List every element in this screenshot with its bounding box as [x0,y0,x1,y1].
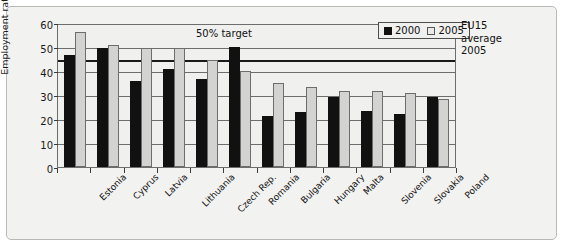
bar-2005-romania [240,71,251,167]
legend-entry-2005: 2005 [427,25,463,36]
bar-2000-cyprus [97,48,108,167]
chart-legend: 2000 2005 [378,22,470,39]
y-tick-label-30: 30 [27,92,58,103]
bar-group [290,25,323,167]
x-tick-label-lithuania: Lithuania [200,172,237,209]
bar-2005-hungary [306,87,317,167]
y-tick-label-50: 50 [27,44,58,55]
bar-2005-slovakia [405,93,416,167]
bar-2005-malta [339,91,350,167]
y-tick-label-60: 60 [27,20,58,31]
bar-2005-poland [438,99,449,167]
eu15-label-line3: 2005 [461,45,502,58]
legend-entry-2000: 2000 [384,25,420,36]
bar-2000-poland [427,97,438,167]
bar-group [389,25,422,167]
x-tick-label-malta: Malta [361,172,386,197]
y-tick-label-40: 40 [27,68,58,79]
bar-2005-estonia [75,32,86,167]
y-tick-label-20: 20 [27,116,58,127]
legend-label-2000: 2000 [395,25,420,36]
x-tick-label-slovenia: Slovenia [399,172,433,206]
y-axis-title: Employment rate % [0,0,10,78]
bar-group [323,25,356,167]
bar-2000-czech-rep [196,79,207,167]
bar-group [124,25,157,167]
bar-group [91,25,124,167]
bar-2000-estonia [64,55,75,167]
x-tick-label-estonia: Estonia [98,172,129,203]
bar-2000-romania [229,47,240,167]
eu15-average-label: EU15 average 2005 [461,20,502,58]
bar-group [223,25,256,167]
y-tick-label-0: 0 [27,164,58,175]
chart-figure: Employment rate % 0102030405060 EstoniaC… [0,0,561,244]
x-tick-label-latvia: Latvia [163,172,189,198]
bar-group [190,25,223,167]
bar-2005-lithuania [174,48,185,167]
x-tick-label-cyprus: Cyprus [131,172,160,201]
eu15-label-line1: EU15 [461,20,502,33]
bar-group [256,25,289,167]
bar-2000-bulgaria [262,116,273,167]
bar-2000-malta [328,97,339,167]
bar-group [58,25,91,167]
bar-2000-hungary [295,112,306,167]
legend-swatch-2005-icon [427,27,435,35]
bar-2000-latvia [130,81,141,167]
eu15-label-line2: average [461,33,502,46]
bar-2000-slovakia [394,114,405,167]
bar-group [356,25,389,167]
bar-2000-slovenia [361,111,372,167]
bar-group [422,25,455,167]
plot-area: 0102030405060 [57,24,456,168]
target-line-label: 50% target [196,28,252,39]
bar-groups [58,25,455,167]
bar-2005-bulgaria [273,83,284,167]
bar-2005-latvia [141,48,152,167]
x-axis-labels: EstoniaCyprusLatviaLithuaniaCzech Rep.Ro… [57,172,456,234]
y-tick-label-10: 10 [27,140,58,151]
bar-2005-czech-rep [207,60,218,167]
bar-2005-slovenia [372,91,383,167]
bar-2000-lithuania [163,69,174,167]
bar-2005-cyprus [108,45,119,167]
legend-swatch-2000-icon [384,27,392,35]
bar-group [157,25,190,167]
x-tick-label-bulgaria: Bulgaria [299,172,332,205]
